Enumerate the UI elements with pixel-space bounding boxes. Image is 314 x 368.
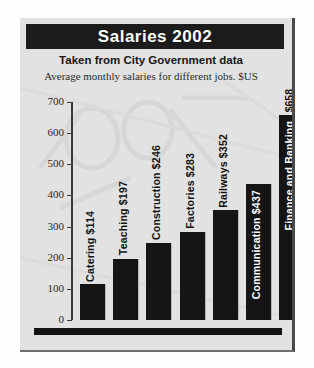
chart-bar-label: Communication $437 bbox=[251, 190, 262, 299]
y-axis-tick-label: 200 bbox=[30, 252, 64, 263]
y-axis-tick bbox=[67, 289, 72, 290]
y-axis-tick-label: 400 bbox=[30, 189, 64, 200]
y-axis-tick-label: 500 bbox=[30, 158, 64, 169]
y-axis-tick bbox=[67, 102, 72, 103]
y-axis-tick-label: 700 bbox=[30, 96, 64, 107]
y-axis-tick bbox=[67, 164, 72, 165]
y-axis-tick bbox=[67, 195, 72, 196]
y-axis-tick-label: 300 bbox=[30, 221, 64, 232]
chart-bar bbox=[180, 232, 205, 320]
salary-chart-card: Salaries 2002 Taken from City Government… bbox=[20, 18, 295, 352]
chart-bar-label: Construction $246 bbox=[151, 145, 162, 240]
bar-chart-plot-area: 0100200300400500600700Catering $114Teach… bbox=[20, 18, 292, 350]
chart-bar-label: Catering $114 bbox=[85, 211, 96, 282]
y-axis-tick-label: 0 bbox=[30, 314, 64, 325]
chart-bar bbox=[213, 210, 238, 320]
chart-bar bbox=[80, 284, 105, 320]
chart-bar-label: Railways $352 bbox=[218, 134, 229, 208]
chart-bar bbox=[146, 243, 171, 320]
chart-bar-label: Teaching $197 bbox=[118, 181, 129, 255]
chart-bar bbox=[113, 259, 138, 320]
y-axis-tick bbox=[67, 227, 72, 228]
chart-baseline-rule bbox=[34, 328, 282, 335]
y-axis-tick bbox=[67, 258, 72, 259]
chart-bar-label: Factories $283 bbox=[185, 153, 196, 229]
y-axis-tick-label: 600 bbox=[30, 127, 64, 138]
y-axis-tick bbox=[67, 133, 72, 134]
y-axis-tick-label: 100 bbox=[30, 283, 64, 294]
y-axis-tick bbox=[67, 320, 72, 321]
chart-bar-label: Finance and Banking bbox=[284, 121, 295, 230]
y-axis-line bbox=[71, 102, 73, 320]
chart-bar-value: $658 bbox=[284, 89, 295, 112]
screenshot-root: Salaries 2002 Taken from City Government… bbox=[0, 0, 314, 368]
